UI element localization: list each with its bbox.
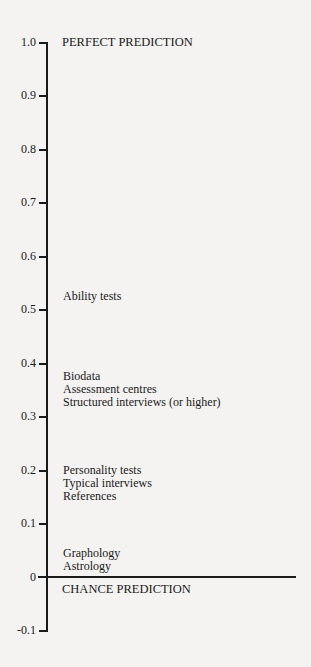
chance-baseline: [38, 576, 296, 578]
tick-label: 0.8: [21, 143, 36, 155]
tick-label: -0.1: [17, 624, 36, 636]
tick-0-6: [39, 256, 47, 258]
method-label: Astrology: [63, 560, 111, 573]
tick-0-5: [39, 309, 47, 311]
tick-label: 1.0: [21, 36, 36, 48]
tick-label: 0.2: [21, 464, 36, 476]
tick-label: 0.5: [21, 303, 36, 315]
tick-0-7: [39, 202, 47, 204]
tick-1-0: [39, 42, 48, 44]
tick-0-8: [39, 149, 47, 151]
y-axis-line: [46, 42, 48, 632]
tick-label: 0.1: [21, 517, 36, 529]
tick-0-1: [39, 523, 47, 525]
tick-label: 0.6: [21, 250, 36, 262]
tick-0-9: [39, 95, 47, 97]
method-label: Ability tests: [63, 290, 121, 303]
perfect-prediction-label: PERFECT PREDICTION: [62, 36, 193, 49]
chance-prediction-label: CHANCE PREDICTION: [62, 583, 191, 596]
tick-label: 0: [30, 571, 36, 583]
tick-label: 0.9: [21, 89, 36, 101]
tick-0-3: [39, 416, 47, 418]
tick-0-2: [39, 470, 47, 472]
tick-neg-0-1: [39, 630, 47, 632]
tick-label: 0.3: [21, 410, 36, 422]
method-label: Structured interviews (or higher): [63, 396, 221, 409]
tick-label: 0.7: [21, 196, 36, 208]
tick-label: 0.4: [21, 357, 36, 369]
tick-0-4: [39, 363, 47, 365]
method-label: References: [63, 490, 116, 503]
